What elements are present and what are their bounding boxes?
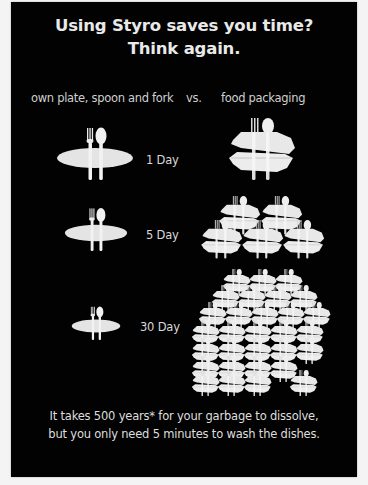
poster: Using Styro saves you time? Think again.… (11, 2, 357, 477)
footer-line-1: It takes 500 years* for your garbage to … (11, 407, 357, 425)
row-label-30-day: 30 Day (140, 320, 180, 334)
illustration (11, 2, 357, 477)
plate-with-fork-spoon-icon (72, 306, 121, 340)
footer-line-2: but you only need 5 minutes to wash the … (11, 425, 357, 443)
styrofoam-container-stack-5 (201, 196, 324, 258)
row-label-5-day: 5 Day (146, 228, 179, 242)
plate-with-fork-spoon-icon (65, 208, 127, 251)
styrofoam-container-icon (229, 118, 295, 180)
plate-with-fork-spoon-icon (57, 128, 133, 181)
styrofoam-container-stack-30 (192, 269, 331, 396)
row-label-1-day: 1 Day (146, 153, 179, 167)
